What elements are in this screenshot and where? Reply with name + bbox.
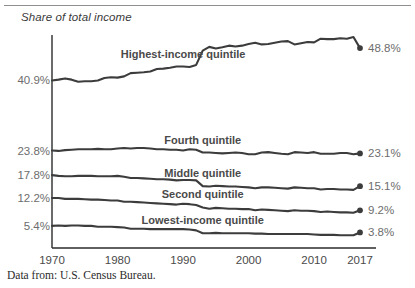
- series-start-label-3: 12.2%: [4, 192, 50, 204]
- x-tick-label-4: 2010: [301, 254, 327, 266]
- series-name-label-3: Second quintile: [162, 188, 244, 200]
- chart-figure: Share of total income 40.9%48.8%Highest-…: [0, 0, 415, 288]
- series-endpoint-marker-2: [357, 183, 363, 189]
- series-start-label-2: 17.8%: [4, 169, 50, 181]
- series-end-label-0: 48.8%: [368, 42, 401, 54]
- series-end-label-2: 15.1%: [368, 180, 401, 192]
- series-end-label-4: 3.8%: [368, 226, 394, 238]
- series-name-label-0: Highest-income quintile: [121, 48, 246, 60]
- source-note: Data from: U.S. Census Bureau.: [7, 269, 156, 281]
- series-name-label-1: Fourth quintile: [164, 134, 241, 146]
- x-tick-label-1: 1980: [105, 254, 131, 266]
- series-endpoint-marker-0: [357, 45, 363, 51]
- x-tick-label-2: 1990: [170, 254, 196, 266]
- series-line-1: [52, 148, 360, 154]
- series-line-4: [52, 225, 360, 235]
- series-endpoint-marker-3: [357, 207, 363, 213]
- x-tick-label-3: 2000: [236, 254, 262, 266]
- series-name-label-4: Lowest-income quintile: [142, 214, 264, 226]
- series-start-label-4: 5.4%: [4, 220, 50, 232]
- x-tick-label-0: 1970: [39, 254, 65, 266]
- series-end-label-3: 9.2%: [368, 204, 394, 216]
- series-start-label-0: 40.9%: [4, 74, 50, 86]
- x-tick-label-5: 2017: [347, 254, 373, 266]
- series-name-label-2: Middle quintile: [164, 167, 241, 179]
- series-endpoint-marker-1: [357, 150, 363, 156]
- series-endpoint-marker-4: [357, 230, 363, 236]
- series-end-label-1: 23.1%: [368, 147, 401, 159]
- series-start-label-1: 23.8%: [4, 145, 50, 157]
